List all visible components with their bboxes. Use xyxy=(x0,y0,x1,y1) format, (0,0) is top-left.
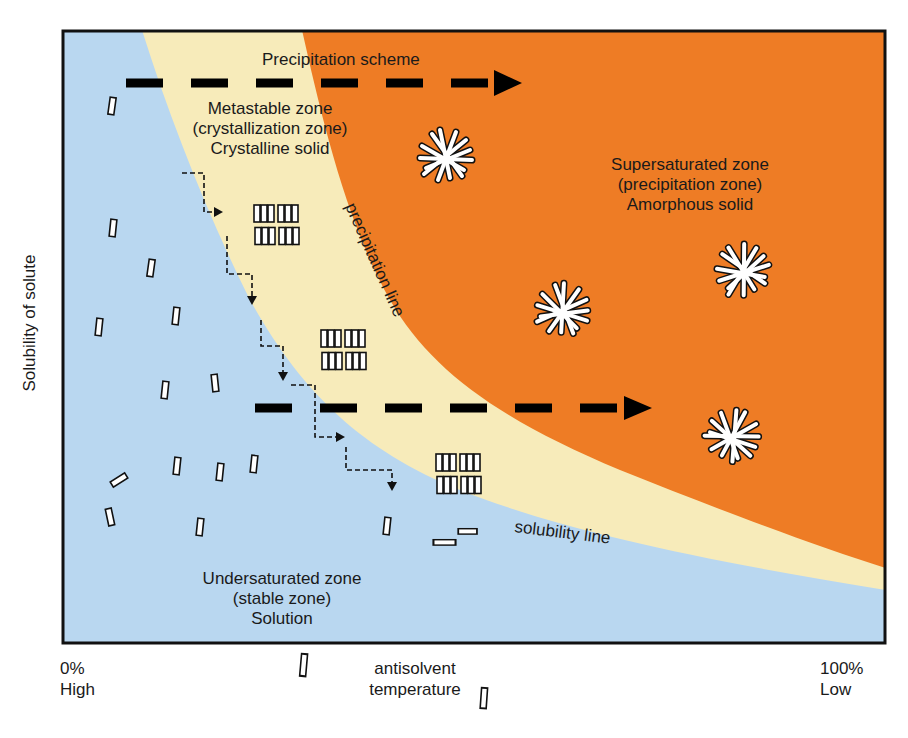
supersaturated-zone-state: Amorphous solid xyxy=(600,195,780,215)
supersaturated-zone-name: Supersaturated zone xyxy=(600,155,780,175)
y-axis-label: Solubility of solute xyxy=(20,254,40,391)
undersaturated-zone-sub: (stable zone) xyxy=(182,589,382,609)
x-left-level: High xyxy=(60,679,95,700)
metastable-zone-label: Metastable zone (crystallization zone) C… xyxy=(190,99,350,159)
crystallization-phase-diagram: precipitation line solubility line xyxy=(0,0,908,738)
x-axis-center-label: antisolvent temperature xyxy=(355,658,475,700)
x-axis-right-label: 100% Low xyxy=(820,658,863,700)
metastable-zone-sub: (crystallization zone) xyxy=(170,119,370,139)
supersaturated-zone-label: Supersaturated zone (precipitation zone)… xyxy=(600,155,780,215)
supersaturated-zone-sub: (precipitation zone) xyxy=(600,175,780,195)
x-center-antisolvent: antisolvent xyxy=(355,658,475,679)
x-right-percent: 100% xyxy=(820,658,863,679)
diagram-title: Precipitation scheme xyxy=(262,50,420,70)
x-left-percent: 0% xyxy=(60,658,95,679)
undersaturated-zone-state: Solution xyxy=(182,609,382,629)
x-axis-left-label: 0% High xyxy=(60,658,95,700)
x-center-temperature: temperature xyxy=(355,679,475,700)
metastable-zone-state: Crystalline solid xyxy=(190,139,350,159)
undersaturated-zone-label: Undersaturated zone (stable zone) Soluti… xyxy=(182,569,382,629)
metastable-zone-name: Metastable zone xyxy=(190,99,350,119)
x-right-level: Low xyxy=(820,679,863,700)
undersaturated-zone-name: Undersaturated zone xyxy=(182,569,382,589)
